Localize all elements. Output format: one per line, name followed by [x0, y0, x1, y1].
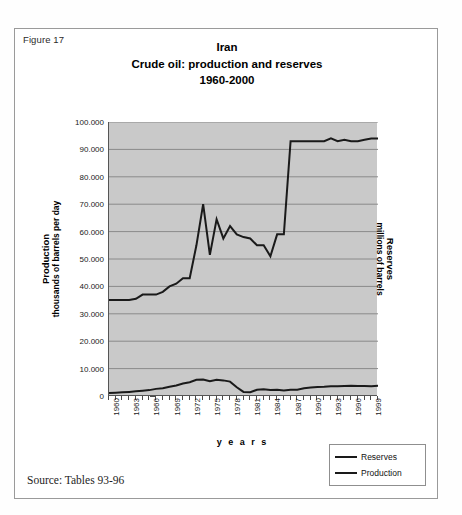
- y-axis-tick-label: 90.000: [80, 145, 104, 154]
- chart-title-line-3: 1960-2000: [15, 72, 439, 89]
- y-axis-tick-label: 70.000: [80, 200, 104, 209]
- line-swatch-icon: [335, 472, 357, 474]
- x-axis-tick-label: 1984: [273, 398, 282, 416]
- x-axis-tick-label: 1987: [294, 398, 303, 416]
- left-axis-title-sub: thousands of barrels per day: [51, 201, 62, 318]
- chart-legend: Reserves Production: [329, 444, 426, 486]
- right-axis-title-sub: millions of barrels: [374, 222, 385, 295]
- x-axis-tick-label: 1978: [233, 398, 242, 416]
- plot-area: [108, 122, 377, 396]
- legend-item-label: Production: [361, 468, 402, 478]
- chart-title-line-2: Crude oil: production and reserves: [15, 56, 439, 73]
- left-axis-title: Production thousands of barrels per day: [36, 122, 66, 396]
- x-axis-tick-label: 1975: [213, 398, 222, 416]
- chart-title: Iran Crude oil: production and reserves …: [15, 39, 439, 89]
- y-axis-tick-label: 50.000: [80, 255, 104, 264]
- series-line-reserves: [109, 138, 378, 300]
- y-axis-tick-label: 100.000: [75, 118, 104, 127]
- x-axis-tick-label: 1960: [112, 398, 121, 416]
- legend-item-reserves[interactable]: Reserves: [335, 449, 420, 465]
- x-axis-tick-label: 1993: [334, 398, 343, 416]
- x-axis-tick-labels: 1960196319661969197219751978198119841987…: [108, 398, 377, 436]
- legend-item-production[interactable]: Production: [335, 465, 420, 481]
- source-caption: Source: Tables 93-96: [27, 474, 124, 486]
- x-axis-tick-label: 1981: [253, 398, 262, 416]
- x-axis-tick-label: 1996: [354, 398, 363, 416]
- x-axis-tick-label: 1969: [173, 398, 182, 416]
- y-axis-tick-label: 0: [100, 392, 104, 401]
- right-axis-title-main: Reserves: [385, 238, 396, 280]
- y-axis-tick-label: 20.000: [80, 337, 104, 346]
- y-axis-tick-label: 30.000: [80, 309, 104, 318]
- x-axis-tick-label: 1990: [314, 398, 323, 416]
- plot-svg: [109, 122, 378, 396]
- legend-item-label: Reserves: [361, 452, 397, 462]
- chart-title-line-1: Iran: [15, 39, 439, 56]
- right-axis-title: Reserves millions of barrels: [370, 122, 400, 396]
- line-swatch-icon: [335, 456, 357, 458]
- x-axis-tick-label: 1963: [132, 398, 141, 416]
- y-axis-tick-label: 60.000: [80, 227, 104, 236]
- gridlines: [109, 122, 378, 369]
- left-axis-title-main: Production: [40, 234, 51, 284]
- series-line-production: [109, 379, 378, 393]
- y-axis-tick-label: 10.000: [80, 364, 104, 373]
- x-axis-tick-label: 1972: [193, 398, 202, 416]
- figure-page: Figure 17 Iran Crude oil: production and…: [0, 0, 462, 515]
- x-axis-tick-label: 1999: [374, 398, 383, 416]
- x-axis-tick-label: 1966: [152, 398, 161, 416]
- y-axis-tick-label: 40.000: [80, 282, 104, 291]
- y-axis-tick-label: 80.000: [80, 172, 104, 181]
